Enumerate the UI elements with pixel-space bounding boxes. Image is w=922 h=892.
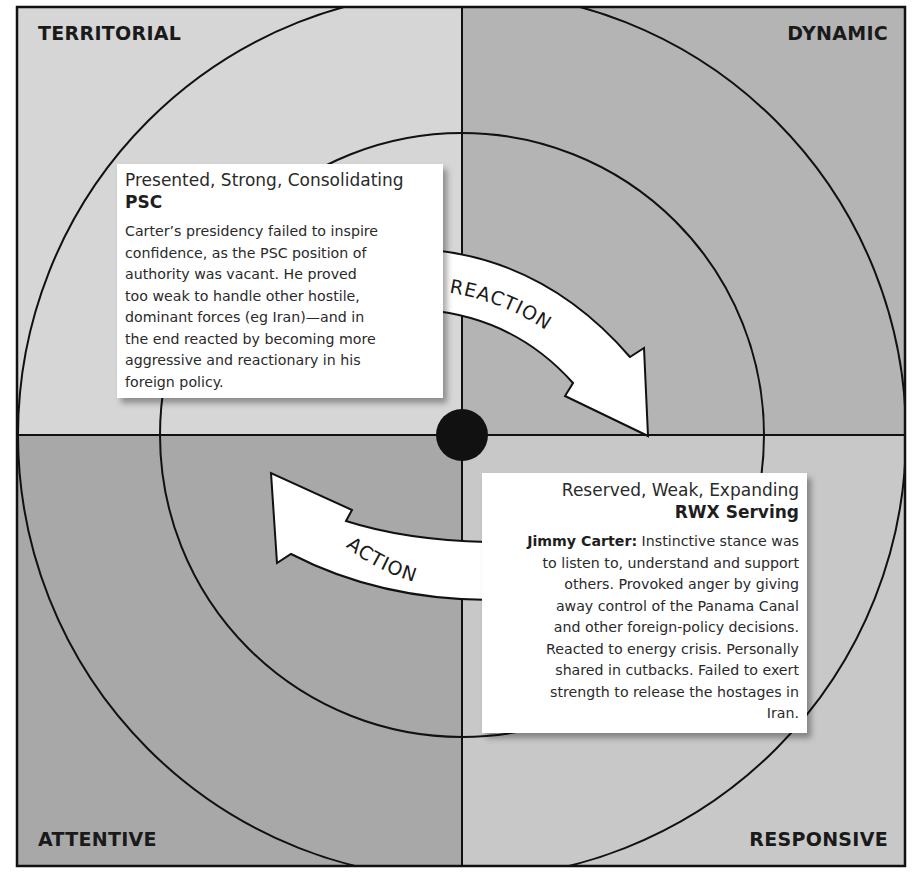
psc-line: Carter’s presidency failed to inspire <box>125 221 435 243</box>
psc-line: authority was vacant. He proved <box>125 264 435 286</box>
rwx-line: away control of the Panama Canal <box>488 596 799 618</box>
quadrant-diagram: REACTION ACTION TERRITORIAL DYNAMIC ATTE… <box>0 0 922 892</box>
center-dot <box>436 409 488 461</box>
diagram-canvas: REACTION ACTION <box>0 0 922 892</box>
quadrant-dynamic <box>462 7 905 435</box>
psc-card-heading: Presented, Strong, Consolidating <box>125 170 435 191</box>
rwx-line: to listen to, understand and support <box>488 553 799 575</box>
psc-line: dominant forces (eg Iran)—and in <box>125 307 435 329</box>
rwx-card-code: RWX Serving <box>488 501 799 523</box>
psc-line: aggressive and reactionary in his <box>125 350 435 372</box>
psc-card-code: PSC <box>125 191 435 213</box>
rwx-line: Iran. <box>488 703 799 725</box>
rwx-line: others. Provoked anger by giving <box>488 574 799 596</box>
rwx-line: Jimmy Carter: Instinctive stance was <box>488 531 799 553</box>
rwx-card-lead: Jimmy Carter: <box>527 533 637 549</box>
rwx-line: and other foreign-policy decisions. <box>488 617 799 639</box>
psc-card-body: Carter’s presidency failed to inspire co… <box>125 221 435 393</box>
rwx-line-text: Instinctive stance was <box>637 533 799 549</box>
label-dynamic: DYNAMIC <box>787 22 888 44</box>
rwx-line: shared in cutbacks. Failed to exert <box>488 660 799 682</box>
psc-line: the end reacted by becoming more <box>125 329 435 351</box>
label-territorial: TERRITORIAL <box>38 22 181 44</box>
label-attentive: ATTENTIVE <box>38 828 157 850</box>
psc-line: confidence, as the PSC position of <box>125 243 435 265</box>
rwx-card: Reserved, Weak, Expanding RWX Serving Ji… <box>482 473 807 733</box>
rwx-line: strength to release the hostages in <box>488 682 799 704</box>
rwx-line: Reacted to energy crisis. Personally <box>488 639 799 661</box>
rwx-card-body: Jimmy Carter: Instinctive stance was to … <box>488 531 799 725</box>
label-responsive: RESPONSIVE <box>749 828 888 850</box>
psc-card: Presented, Strong, Consolidating PSC Car… <box>117 164 443 398</box>
psc-line: foreign policy. <box>125 372 435 394</box>
psc-line: too weak to handle other hostile, <box>125 286 435 308</box>
quadrant-attentive <box>17 435 462 866</box>
rwx-card-heading: Reserved, Weak, Expanding <box>488 480 799 501</box>
